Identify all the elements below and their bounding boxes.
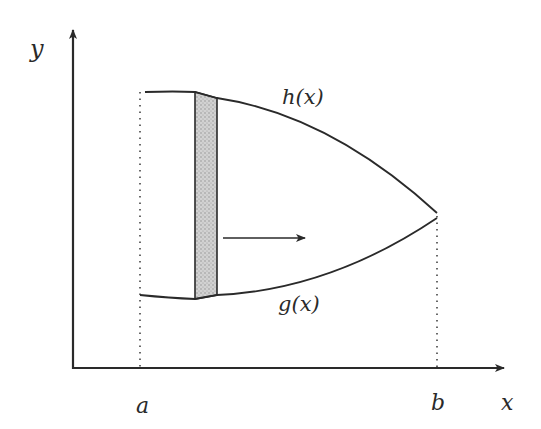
left-bound-label: a: [136, 393, 149, 418]
upper-curve: [145, 92, 437, 214]
y-axis-label: y: [29, 35, 44, 63]
upper-curve-label: h(x): [282, 85, 324, 109]
x-axis-label: x: [501, 390, 514, 415]
area-between-curves-diagram: y h(x) g(x) a b x: [0, 0, 541, 429]
right-bound-label: b: [431, 390, 445, 415]
lower-curve-label: g(x): [278, 292, 320, 316]
lower-curve: [140, 218, 437, 299]
vertical-strip: [195, 92, 217, 299]
